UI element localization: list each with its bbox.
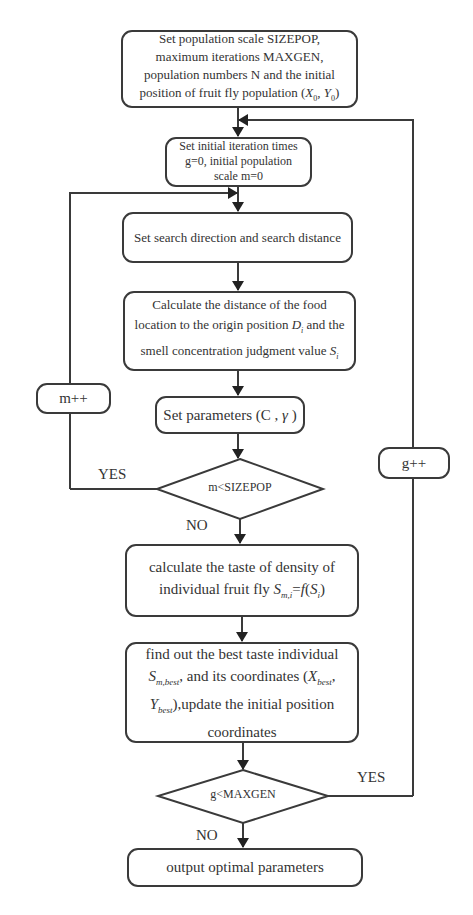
increment-g-text: g++ <box>402 454 426 473</box>
increment-m-text: m++ <box>59 389 88 408</box>
best-line2: Sm,best, and its coordinates (Xbest, <box>149 668 336 684</box>
best-line3: Ybest),update the initial position <box>150 696 334 712</box>
best-line4: coordinates <box>207 724 276 740</box>
calculate-line1: Calculate the distance of the food <box>152 297 326 312</box>
decision1-no-label: NO <box>186 517 208 534</box>
init-box: Set initial iteration times g=0, initial… <box>165 137 312 187</box>
increment-g-box: g++ <box>378 447 450 479</box>
decision2-text: g<MAXGEN <box>183 787 303 802</box>
taste-line1: calculate the taste of density of <box>149 559 335 575</box>
start-line3: population numbers N and the initial <box>144 67 335 82</box>
start-line1: Set population scale SIZEPOP, <box>159 31 320 46</box>
end-box: output optimal parameters <box>127 848 363 887</box>
init-line2: g=0, initial population <box>185 154 292 168</box>
decision1-yes-label: YES <box>98 466 126 483</box>
params-box: Set parameters (C , γ ) <box>155 396 305 434</box>
decision2-no-label: NO <box>196 827 218 844</box>
calculate-box: Calculate the distance of the food locat… <box>123 291 356 371</box>
search-box: Set search direction and search distance <box>122 212 353 263</box>
start-box: Set population scale SIZEPOP, maximum it… <box>121 30 358 108</box>
init-line1: Set initial iteration times <box>179 139 297 153</box>
start-line2: maximum iterations MAXGEN, <box>156 49 324 64</box>
calculate-line2: location to the origin position Di and t… <box>135 317 345 332</box>
init-line3: scale m=0 <box>214 169 263 183</box>
calculate-line3: smell concentration judgment value Si <box>141 343 339 358</box>
best-line1: find out the best taste individual <box>146 646 339 662</box>
end-text: output optimal parameters <box>166 858 323 877</box>
decision1-text: m<SIZEPOP <box>180 480 300 495</box>
params-text: Set parameters (C , γ ) <box>163 406 296 425</box>
search-text: Set search direction and search distance <box>134 228 341 247</box>
start-line4: position of fruit fly population (X0, Y0… <box>140 85 340 100</box>
decision2-yes-label: YES <box>357 769 385 786</box>
best-box: find out the best taste individual Sm,be… <box>125 642 359 743</box>
taste-box: calculate the taste of density of indivi… <box>125 544 359 617</box>
taste-line2: individual fruit fly Sm,i=f(Si) <box>159 581 325 597</box>
increment-m-box: m++ <box>36 383 111 414</box>
